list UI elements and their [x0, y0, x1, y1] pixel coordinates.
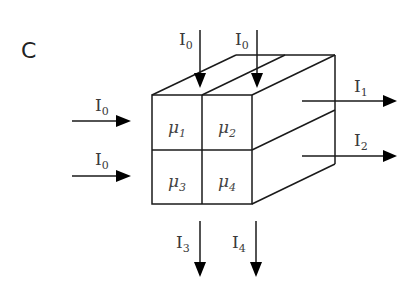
- block-front-face: [152, 95, 252, 204]
- block-right-face: [252, 55, 335, 204]
- cell-mu1-label: μ1: [168, 117, 186, 140]
- arrow-down-icon: [194, 221, 206, 277]
- output-right-bottom-label: I2: [354, 130, 368, 153]
- panel-label: C: [21, 38, 36, 63]
- input-left-top-label: I0: [95, 95, 109, 118]
- output-bottom-right-label: I4: [232, 232, 246, 255]
- input-top-right-label: I0: [235, 29, 249, 52]
- cell-mu2-label: μ2: [218, 117, 236, 140]
- output-right-top-label: I1: [354, 76, 368, 99]
- arrow-down-icon: [194, 30, 206, 88]
- output-bottom-left-label: I3: [176, 232, 190, 255]
- attenuation-block-diagram: C μ1 μ2 μ3 μ4 I0 I0 I0 I0: [0, 0, 413, 292]
- cell-mu3-label: μ3: [168, 171, 186, 194]
- arrow-down-icon: [250, 221, 262, 277]
- arrow-right-icon: [302, 95, 397, 107]
- cell-mu4-label: μ4: [218, 171, 236, 194]
- input-left-bottom-label: I0: [95, 149, 109, 172]
- block-top-face: [152, 55, 335, 95]
- arrow-right-icon: [302, 150, 397, 162]
- input-top-left-label: I0: [179, 29, 193, 52]
- arrow-down-icon: [251, 30, 263, 88]
